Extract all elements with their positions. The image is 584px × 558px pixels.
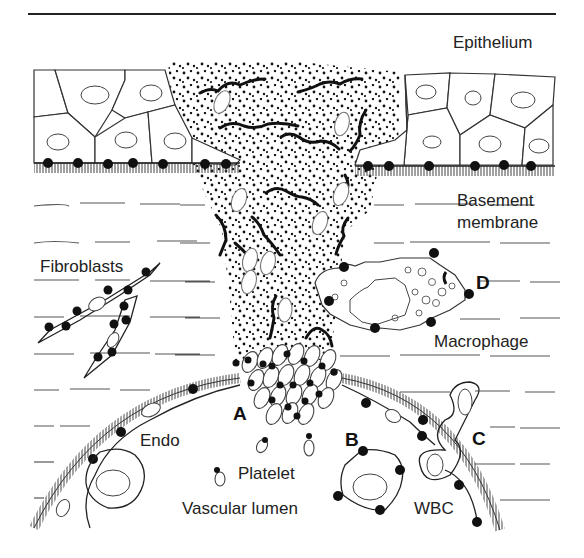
label-basement-membrane-line2: membrane xyxy=(457,213,538,232)
label-vascular-lumen: Vascular lumen xyxy=(182,499,298,518)
label-platelet: Platelet xyxy=(238,464,295,483)
marker-c: C xyxy=(472,428,486,449)
wound-healing-diagram: Epithelium Basement membrane Fibroblasts… xyxy=(0,0,584,558)
platelet-plug xyxy=(233,341,345,427)
marker-a: A xyxy=(233,403,247,424)
marker-b: B xyxy=(345,429,359,450)
label-basement-membrane-line1: Basement xyxy=(457,191,534,210)
endothelial-cell-large xyxy=(86,449,144,508)
label-endo: Endo xyxy=(140,431,180,450)
label-wbc: WBC xyxy=(414,499,454,518)
label-fibroblasts: Fibroblasts xyxy=(40,257,123,276)
marker-d: D xyxy=(476,272,490,293)
label-macrophage: Macrophage xyxy=(434,332,529,351)
label-epithelium: Epithelium xyxy=(453,33,532,52)
leukocyte-b xyxy=(333,446,405,515)
